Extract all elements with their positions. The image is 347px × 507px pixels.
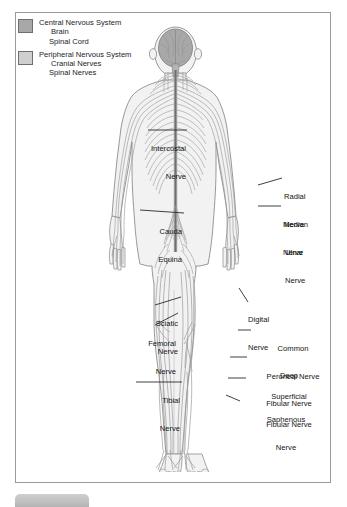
label-femoral-line1: Femoral — [92, 339, 176, 348]
pns-swatch — [18, 51, 33, 65]
label-femoral-nerve: Femoral Nerve — [92, 320, 176, 386]
label-intercostal-line1: Intercostal — [66, 144, 186, 153]
label-saphenous-line1: Saphenous — [242, 415, 330, 424]
label-cauda-equina: Cauda Equina — [78, 208, 182, 274]
label-digital-line1: Digital — [248, 315, 269, 324]
label-tibial-line1: Tibial — [100, 396, 180, 405]
label-cauda-line2: Equina — [78, 255, 182, 264]
cns-swatch — [18, 19, 33, 33]
label-radial-line1: Radial — [284, 192, 324, 201]
label-femoral-line2: Nerve — [92, 367, 176, 376]
label-ulnar-line1: Ulnar — [285, 248, 305, 257]
label-tibial-line2: Nerve — [100, 424, 180, 433]
label-ulnar-line2: Nerve — [285, 276, 305, 285]
label-median-line1: Median — [283, 220, 325, 229]
label-tibial-nerve: Tibial Nerve — [100, 377, 180, 443]
label-saphenous-nerve: Saphenous Nerve — [242, 396, 330, 462]
label-saphenous-line2: Nerve — [242, 443, 330, 452]
bottom-toolbar-tab[interactable] — [15, 494, 89, 507]
label-intercostal-line2: Nerve — [66, 172, 186, 181]
label-cauda-line1: Cauda — [78, 227, 182, 236]
label-ulnar-nerve: Ulnar Nerve — [285, 229, 305, 295]
label-intercostal-nerve: Intercostal Nerve — [66, 125, 186, 191]
